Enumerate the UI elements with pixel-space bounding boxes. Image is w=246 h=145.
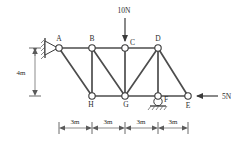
load-arrow-10N: 10N [118,6,132,41]
dim-h-head-2a [92,126,98,131]
dim-v-head-bottom [32,90,38,96]
member-DE [158,48,188,96]
node-label-F: F [164,95,168,104]
dim-h-head-1b [86,126,92,131]
load-10N-label: 10N [118,6,132,15]
dim-v-head-top [32,48,38,54]
dim-label-4m: 4m [17,69,27,77]
member-AH [59,48,92,96]
dim-h-head-3a [125,126,131,131]
node-D [155,45,161,51]
dim-label-span-3: 3m [137,118,147,126]
node-label-C: C [130,38,135,47]
node-H [89,93,95,99]
load-5N-label: 5N [222,92,232,101]
member-DG [125,48,158,96]
dim-label-span-1: 3m [71,118,81,126]
dim-h-head-1a [59,126,65,131]
node-C [122,45,128,51]
node-A [56,45,62,51]
dim-h-head-4b [182,126,188,131]
dim-label-span-4: 3m [169,118,179,126]
dimension-spans-3m: 3m 3m 3m 3m [59,118,188,134]
node-E [185,93,191,99]
node-label-E: E [186,101,191,110]
truss-members [59,48,188,96]
dim-h-head-2b [119,126,125,131]
node-B [89,45,95,51]
dim-h-head-3b [152,126,158,131]
node-label-A: A [56,34,62,43]
node-label-D: D [155,34,161,43]
truss-diagram-figure: A B C D E F G H 10N 5N 4m [0,0,246,145]
dim-label-span-2: 3m [104,118,114,126]
node-G [122,93,128,99]
node-label-G: G [123,100,129,109]
node-label-H: H [88,100,94,109]
node-label-B: B [89,34,94,43]
dimension-height-4m: 4m [17,48,41,96]
truss-diagram-canvas: A B C D E F G H 10N 5N 4m [0,0,246,145]
ground-hatch-1 [148,106,151,110]
load-arrow-5N: 5N [197,92,232,101]
node-F [155,93,161,99]
member-BG [92,48,125,96]
dim-h-head-4a [158,126,164,131]
